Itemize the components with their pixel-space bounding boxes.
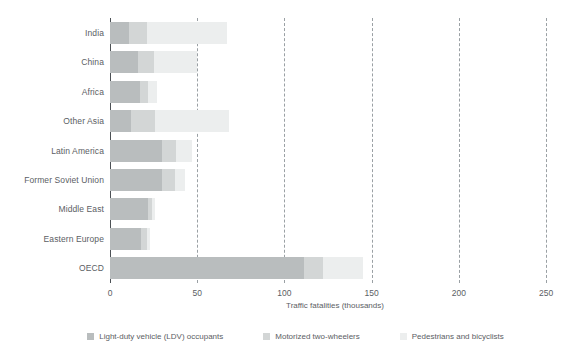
bar-row xyxy=(110,140,560,162)
bar-segment xyxy=(110,110,131,132)
y-tick-label-china: China xyxy=(0,57,104,67)
legend-label: Pedestrians and bicyclists xyxy=(412,332,504,341)
bar-row xyxy=(110,81,560,103)
x-axis-line xyxy=(110,283,560,284)
y-tick-label-africa: Africa xyxy=(0,87,104,97)
x-axis-title: Traffic fatalities (thousands) xyxy=(110,301,560,310)
x-tick-label-150: 150 xyxy=(352,288,392,298)
bar-segment xyxy=(110,257,304,279)
bar-segment xyxy=(110,81,140,103)
plot-area xyxy=(110,18,560,283)
x-tick-label-0: 0 xyxy=(90,288,130,298)
bar-segment xyxy=(148,81,157,103)
legend-swatch-icon xyxy=(263,333,270,340)
bar-row xyxy=(110,110,560,132)
legend-item[interactable]: Pedestrians and bicyclists xyxy=(400,330,504,342)
bar-row xyxy=(110,198,560,220)
bar-row xyxy=(110,22,560,44)
bar-segment xyxy=(176,140,192,162)
bar-row xyxy=(110,51,560,73)
y-tick-label-india: India xyxy=(0,28,104,38)
bar-segment xyxy=(147,228,150,250)
legend-swatch-icon xyxy=(400,333,407,340)
bar-segment xyxy=(110,51,138,73)
chart-legend: Light-duty vehicle (LDV) occupantsMotori… xyxy=(0,330,571,344)
bar-row xyxy=(110,228,560,250)
bar-segment xyxy=(152,198,155,220)
bar-segment xyxy=(110,228,141,250)
bar-segment xyxy=(155,110,228,132)
bar-segment xyxy=(110,198,148,220)
bar-row xyxy=(110,169,560,191)
bar-segment xyxy=(162,169,174,191)
bar-segment xyxy=(323,257,363,279)
y-tick-label-eastern-europe: Eastern Europe xyxy=(0,234,104,244)
bar-segment xyxy=(129,22,146,44)
bar-segment xyxy=(110,22,129,44)
bar-segment xyxy=(154,51,198,73)
x-tick-label-100: 100 xyxy=(264,288,304,298)
legend-label: Light-duty vehicle (LDV) occupants xyxy=(99,332,223,341)
legend-item[interactable]: Light-duty vehicle (LDV) occupants xyxy=(87,330,223,342)
legend-swatch-icon xyxy=(87,333,94,340)
y-tick-label-former-soviet-union: Former Soviet Union xyxy=(0,175,104,185)
x-tick-label-250: 250 xyxy=(526,288,566,298)
bar-segment xyxy=(304,257,323,279)
bar-segment xyxy=(131,110,155,132)
x-tick-label-50: 50 xyxy=(177,288,217,298)
y-tick-label-latin-america: Latin America xyxy=(0,146,104,156)
bar-segment xyxy=(138,51,154,73)
legend-item[interactable]: Motorized two-wheelers xyxy=(263,330,359,342)
bar-segment xyxy=(175,169,185,191)
y-tick-label-oecd: OECD xyxy=(0,263,104,273)
bar-segment xyxy=(110,169,162,191)
bar-segment xyxy=(110,140,162,162)
bar-segment xyxy=(147,22,227,44)
y-tick-label-middle-east: Middle East xyxy=(0,204,104,214)
y-tick-label-other-asia: Other Asia xyxy=(0,116,104,126)
bar-segment xyxy=(140,81,149,103)
bar-row xyxy=(110,257,560,279)
bar-segment xyxy=(162,140,176,162)
traffic-fatalities-chart: IndiaChinaAfricaOther AsiaLatin AmericaF… xyxy=(0,0,571,357)
x-tick-label-200: 200 xyxy=(439,288,479,298)
legend-label: Motorized two-wheelers xyxy=(275,332,359,341)
